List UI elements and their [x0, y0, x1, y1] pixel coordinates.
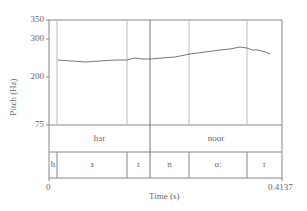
- x-tick-start: 0: [46, 182, 51, 192]
- phone-label-oo: oː: [189, 159, 247, 169]
- x-tick-end: 0.4137: [268, 182, 293, 192]
- phone-label-er: ɜ: [57, 159, 127, 169]
- phone-label-r1: r: [127, 159, 150, 169]
- y-tick-300: 300: [14, 33, 44, 43]
- x-axis-label: Time (s): [149, 191, 179, 201]
- phone-label-r2: r: [247, 159, 282, 169]
- word-label-1: hɜr: [49, 133, 150, 143]
- phone-label-h: h: [49, 159, 57, 169]
- y-tick-350: 350: [14, 14, 44, 24]
- y-tick-200: 200: [14, 71, 44, 81]
- phone-label-n: n: [150, 159, 189, 169]
- y-tick-75: 75: [14, 119, 44, 129]
- word-label-2: noor: [150, 133, 282, 143]
- y-axis-label: Pitch (Hz): [8, 72, 18, 122]
- pitch-chart-canvas: [0, 0, 307, 211]
- pitch-contour: [58, 47, 270, 62]
